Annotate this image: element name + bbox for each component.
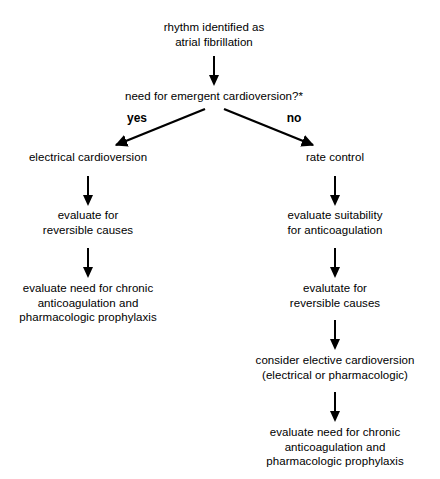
- node-right-evaluate-reversible-causes: evalutate for reversible causes: [245, 281, 425, 310]
- branch-arrows: [0, 0, 440, 479]
- node-left-evaluate-reversible-causes: evaluate for reversible causes: [0, 208, 178, 237]
- arrow-right-3-to-4: [329, 320, 341, 350]
- flowchart-canvas: rhythm identified as atrial fibrillation…: [0, 0, 440, 479]
- arrow-right-2-to-3: [329, 248, 341, 278]
- node-left-evaluate-chronic-anticoagulation: evaluate need for chronic anticoagulatio…: [0, 281, 188, 325]
- arrow-right-1-to-2: [329, 176, 341, 206]
- node-rate-control: rate control: [250, 150, 420, 165]
- node-electrical-cardioversion: electrical cardioversion: [0, 150, 183, 165]
- arrow-left-1-to-2: [82, 176, 94, 206]
- branch-label-no: no: [287, 112, 302, 125]
- arrow-right-4-to-5: [329, 392, 341, 422]
- node-right-evaluate-chronic-anticoagulation: evaluate need for chronic anticoagulatio…: [235, 425, 435, 469]
- node-consider-elective-cardioversion: consider elective cardioversion (electri…: [225, 353, 440, 382]
- arrow-left-2-to-3: [82, 248, 94, 278]
- branch-label-yes: yes: [127, 112, 147, 125]
- node-evaluate-suitability-anticoagulation: evaluate suitability for anticoagulation: [245, 208, 425, 237]
